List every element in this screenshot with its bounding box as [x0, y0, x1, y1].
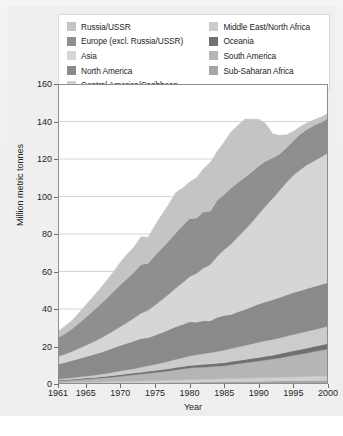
legend-item[interactable]: Middle East/North Africa	[209, 20, 323, 34]
legend-item[interactable]: South America	[209, 49, 323, 63]
x-axis-tick-mark	[155, 384, 156, 388]
x-axis-tick-mark	[190, 384, 191, 388]
x-axis-tick-label: 1985	[214, 388, 234, 398]
x-axis-tick-label: 1995	[283, 388, 303, 398]
legend-column-left: Russia/USSREurope (excl. Russia/USSR)Asi…	[67, 20, 209, 92]
legend-swatch-icon	[209, 37, 218, 46]
legend-item-label: Sub-Saharan Africa	[223, 66, 293, 76]
legend-item[interactable]: Oceania	[209, 35, 323, 49]
legend-swatch-icon	[67, 66, 76, 75]
legend-swatch-icon	[209, 66, 218, 75]
y-axis-tick-mark	[54, 197, 58, 198]
x-axis-tick-label: 1961	[48, 388, 68, 398]
y-axis-tick-mark	[54, 122, 58, 123]
legend-swatch-icon	[67, 37, 76, 46]
y-axis-tick-label: 80	[26, 229, 52, 239]
y-axis-title: Million metric tonnes	[15, 105, 25, 265]
legend-item-label: Middle East/North Africa	[223, 22, 310, 32]
legend-item[interactable]: North America	[67, 64, 209, 78]
x-axis-tick-mark	[58, 384, 59, 388]
y-axis-tick-label: 120	[26, 154, 52, 164]
x-axis-tick-label: 2000	[318, 388, 338, 398]
y-axis-tick-mark	[54, 347, 58, 348]
x-axis-tick-mark	[328, 384, 329, 388]
y-axis-tick-label: 20	[26, 342, 52, 352]
x-axis-tick-mark	[120, 384, 121, 388]
legend-swatch-icon	[67, 22, 76, 31]
legend-item[interactable]: Asia	[67, 49, 209, 63]
y-axis-tick-mark	[54, 159, 58, 160]
legend-item[interactable]: Europe (excl. Russia/USSR)	[67, 35, 209, 49]
legend-item[interactable]: Sub-Saharan Africa	[209, 64, 323, 78]
legend-item-label: South America	[223, 51, 276, 61]
legend-swatch-icon	[209, 51, 218, 60]
y-axis-tick-mark	[54, 84, 58, 85]
x-axis-tick-mark	[86, 384, 87, 388]
legend-item-label: Europe (excl. Russia/USSR)	[81, 36, 183, 46]
y-axis-tick-label: 100	[26, 192, 52, 202]
legend-column-right: Middle East/North AfricaOceaniaSouth Ame…	[209, 20, 323, 92]
x-axis-title: Year	[58, 402, 328, 412]
legend-swatch-icon	[67, 51, 76, 60]
x-axis-tick-label: 1965	[76, 388, 96, 398]
y-axis-tick-label: 60	[26, 267, 52, 277]
plot-area	[58, 84, 328, 384]
legend-swatch-icon	[209, 22, 218, 31]
legend-item[interactable]: Russia/USSR	[67, 20, 209, 34]
x-axis-tick-label: 1990	[249, 388, 269, 398]
y-axis-tick-mark	[54, 272, 58, 273]
legend-item-label: Russia/USSR	[81, 22, 131, 32]
x-axis-tick-label: 1975	[145, 388, 165, 398]
x-axis-tick-mark	[224, 384, 225, 388]
stacked-area-chart	[58, 84, 328, 384]
y-axis-tick-mark	[54, 309, 58, 310]
y-axis-tick-label: 140	[26, 117, 52, 127]
y-axis-tick-mark	[54, 234, 58, 235]
x-axis-tick-mark	[293, 384, 294, 388]
x-axis-tick-mark	[259, 384, 260, 388]
legend-item-label: Asia	[81, 51, 97, 61]
legend-item-label: Oceania	[223, 36, 253, 46]
x-axis-tick-label: 1970	[110, 388, 130, 398]
figure-root: Russia/USSREurope (excl. Russia/USSR)Asi…	[0, 0, 343, 436]
y-axis-tick-label: 160	[26, 79, 52, 89]
y-axis-tick-label: 40	[26, 304, 52, 314]
chart-legend: Russia/USSREurope (excl. Russia/USSR)Asi…	[58, 14, 330, 90]
legend-item-label: North America	[81, 66, 132, 76]
x-axis-tick-label: 1980	[180, 388, 200, 398]
